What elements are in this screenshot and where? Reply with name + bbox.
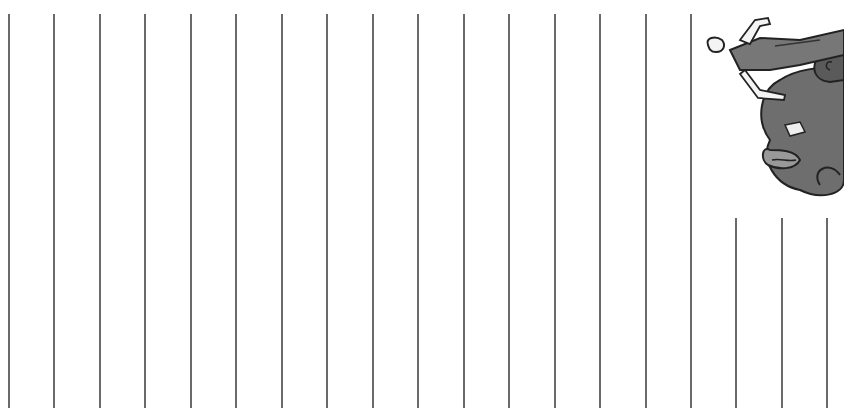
vertical-rule-line [190,14,192,408]
vertical-rule-line [326,14,328,408]
vertical-rule-line [8,14,10,408]
cartoon-figure-icon [700,10,844,210]
vertical-rule-line [372,14,374,408]
cartoon-illustration [700,10,844,210]
vertical-rule-line [690,14,692,408]
vertical-rule-line [99,14,101,408]
vertical-rule-line [508,14,510,408]
vertical-rule-line [735,218,737,408]
vertical-rule-line [645,14,647,408]
vertical-rule-line [463,14,465,408]
vertical-rule-line [144,14,146,408]
vertical-rule-line [554,14,556,408]
vertical-rule-line [53,14,55,408]
vertical-rule-line [826,218,828,408]
vertical-rule-line [281,14,283,408]
vertical-rule-line [599,14,601,408]
vertical-rule-line [235,14,237,408]
vertical-rule-line [781,218,783,408]
vertical-rule-line [417,14,419,408]
